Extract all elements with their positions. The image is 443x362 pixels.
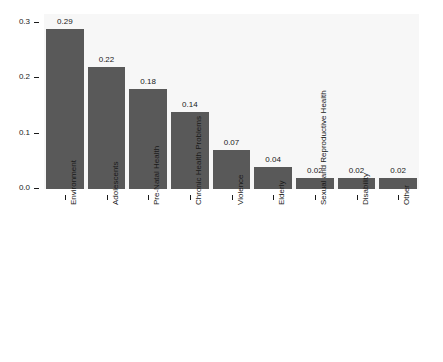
bar [171,112,209,189]
bar [379,178,417,189]
x-tick-mark [273,195,274,200]
y-tick-mark [34,77,39,78]
x-tick-label: Chronic Health Problems [194,116,203,205]
bar-value-label: 0.04 [252,155,294,164]
x-tick-mark [357,195,358,200]
bar-value-label: 0.02 [336,166,378,175]
bar [254,167,292,189]
y-tick-mark [34,22,39,23]
bar [46,29,84,189]
y-tick-label: 0.1 [8,128,30,137]
y-tick-label: 0.0 [8,183,30,192]
plot-panel [44,14,419,189]
x-tick-label: Adolescents [111,161,120,205]
bar-value-label: 0.22 [86,55,128,64]
bar-value-label: 0.18 [127,77,169,86]
y-tick-mark [34,188,39,189]
x-tick-label: Other [402,185,411,205]
bar [296,178,334,189]
x-tick-mark [190,195,191,200]
bar-value-label: 0.02 [377,166,419,175]
bar-chart: 0.00.10.20.3 0.290.220.180.140.070.040.0… [0,0,443,362]
x-tick-mark [315,195,316,200]
x-tick-label: Disability [361,173,370,205]
x-tick-mark [398,195,399,200]
x-tick-mark [232,195,233,200]
x-tick-label: Violence [236,174,245,205]
bar-value-label: 0.07 [211,138,253,147]
x-tick-mark [65,195,66,200]
bar-value-label: 0.14 [169,100,211,109]
x-tick-label: Sexual and Reproductive Health [319,90,328,205]
bar [129,89,167,189]
y-tick-mark [34,133,39,134]
x-tick-label: Pre-Natal Health [152,146,161,205]
x-tick-label: Environment [69,160,78,205]
y-tick-label: 0.2 [8,72,30,81]
bar-value-label: 0.02 [294,166,336,175]
x-tick-mark [107,195,108,200]
y-tick-label: 0.3 [8,17,30,26]
x-tick-mark [148,195,149,200]
bar-value-label: 0.29 [44,17,86,26]
x-tick-label: Elderly [277,181,286,205]
